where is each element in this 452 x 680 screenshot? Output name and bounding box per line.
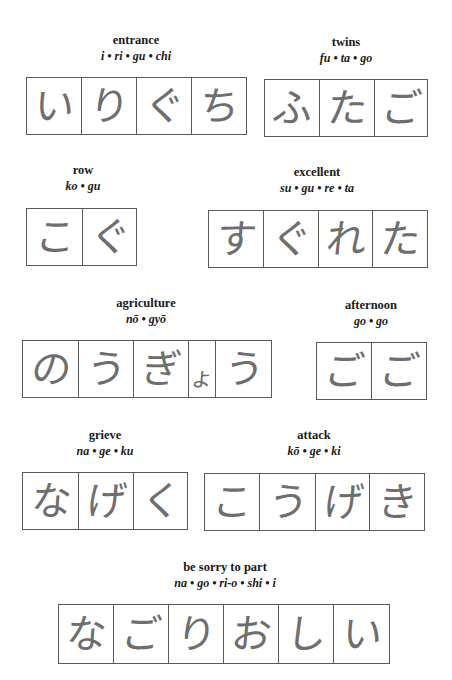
romaji-label: na • go • ri-o • shi • i xyxy=(174,576,276,591)
kana-grid: こ ぐ xyxy=(26,208,137,266)
kana-cell: り xyxy=(82,78,137,134)
kana-cell: げ xyxy=(79,473,134,529)
kana-grid: ふ た ご xyxy=(264,79,428,137)
kana-cell: お xyxy=(224,605,279,663)
kana-cell: な xyxy=(23,473,79,529)
meaning-label: afternoon xyxy=(345,298,397,313)
kana-grid: な ご り お し い xyxy=(58,604,390,664)
kana-grid: ご ご xyxy=(316,342,427,400)
kana-cell: た xyxy=(320,80,375,136)
kana-cell: れ xyxy=(319,211,373,267)
meaning-label: entrance xyxy=(113,33,160,48)
kana-cell: ぐ xyxy=(137,78,192,134)
meaning-label: grieve xyxy=(89,428,122,443)
kana-grid: い り ぐ ち xyxy=(26,77,247,135)
meaning-label: attack xyxy=(297,428,330,443)
romaji-label: i • ri • gu • chi xyxy=(101,49,171,64)
meaning-label: agriculture xyxy=(116,296,175,311)
kana-cell: ご xyxy=(114,605,169,663)
romaji-label: su • gu • re • ta xyxy=(280,181,354,196)
romaji-label: go • go xyxy=(354,314,388,329)
kana-cell: ぎ xyxy=(134,341,189,397)
kana-cell: こ xyxy=(27,209,83,265)
kana-cell: ご xyxy=(372,343,426,399)
romaji-label: kō • ge • ki xyxy=(287,444,340,459)
romaji-label: nō • gyō xyxy=(126,312,166,327)
kana-cell: げ xyxy=(316,474,370,530)
meaning-label: twins xyxy=(332,35,360,50)
kana-cell: ぐ xyxy=(264,211,319,267)
kana-cell: き xyxy=(370,474,424,530)
kana-cell: ふ xyxy=(265,80,320,136)
kana-cell: う xyxy=(260,474,316,530)
kana-cell: の xyxy=(23,341,79,397)
kana-cell: く xyxy=(134,473,187,529)
romaji-label: fu • ta • go xyxy=(320,51,372,66)
kana-cell: い xyxy=(27,78,82,134)
kana-cell: り xyxy=(169,605,224,663)
kana-cell: す xyxy=(209,211,264,267)
romaji-label: ko • gu xyxy=(66,179,101,194)
kana-cell: こ xyxy=(205,474,260,530)
kana-cell: ぐ xyxy=(83,209,136,265)
kana-cell: い xyxy=(334,605,389,663)
kana-cell: う xyxy=(216,341,271,397)
kana-cell-small: ょ xyxy=(189,341,216,397)
kana-cell: う xyxy=(79,341,134,397)
kana-cell: ご xyxy=(375,80,427,136)
kana-cell: し xyxy=(279,605,334,663)
meaning-label: excellent xyxy=(294,165,341,180)
meaning-label: be sorry to part xyxy=(183,560,267,575)
kana-grid: な げ く xyxy=(22,472,188,530)
kana-grid: こ う げ き xyxy=(204,473,425,531)
kana-cell: た xyxy=(373,211,427,267)
romaji-label: na • ge • ku xyxy=(76,444,133,459)
kana-grid: の う ぎ ょ う xyxy=(22,340,272,398)
kana-grid: す ぐ れ た xyxy=(208,210,428,268)
kana-cell: ち xyxy=(192,78,246,134)
kana-cell: な xyxy=(59,605,114,663)
meaning-label: row xyxy=(73,163,94,178)
kana-cell: ご xyxy=(317,343,372,399)
